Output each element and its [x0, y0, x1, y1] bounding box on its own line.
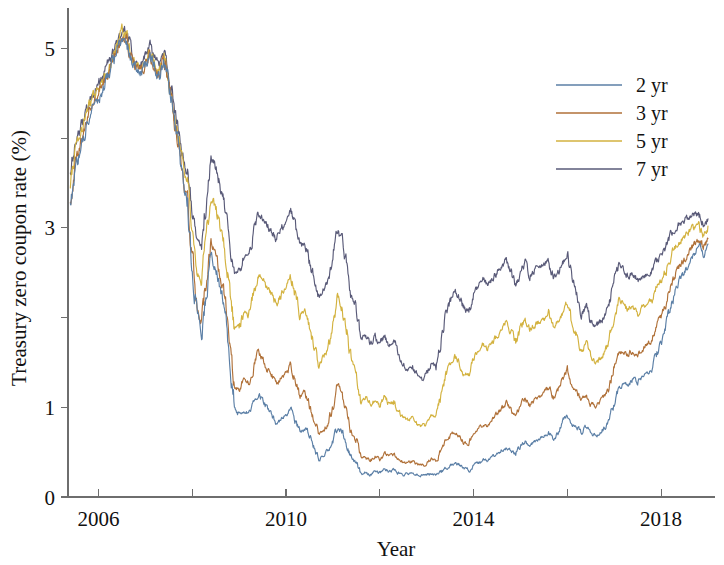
- x-tick-label-2014: 2014: [453, 507, 496, 531]
- x-tick-label-2006: 2006: [77, 507, 119, 531]
- y-tick-label-0: 0: [45, 486, 56, 510]
- y-tick-label-5: 5: [45, 37, 56, 61]
- y-axis-title: Treasury zero coupon rate (%): [7, 130, 31, 386]
- treasury-zero-coupon-rate-chart: 0135 2006201020142018 2 yr3 yr5 yr7 yr T…: [0, 0, 724, 565]
- y-tick-label-3: 3: [45, 216, 56, 240]
- x-tick-label-2010: 2010: [265, 507, 307, 531]
- legend-label-5-yr: 5 yr: [636, 130, 668, 153]
- legend-label-7-yr: 7 yr: [636, 158, 668, 181]
- legend-label-3-yr: 3 yr: [636, 102, 668, 125]
- y-tick-label-1: 1: [45, 396, 56, 420]
- x-tick-label-2018: 2018: [640, 507, 682, 531]
- x-axis-title: Year: [377, 537, 416, 561]
- chart-canvas: 0135 2006201020142018 2 yr3 yr5 yr7 yr T…: [0, 0, 724, 565]
- legend-label-2-yr: 2 yr: [636, 74, 668, 97]
